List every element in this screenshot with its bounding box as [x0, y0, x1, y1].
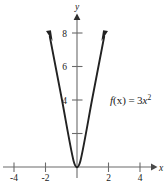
y-axis-label: y [74, 2, 80, 12]
x-tick-label--2: -2 [42, 173, 50, 183]
x-tick-label-4: 4 [138, 173, 143, 183]
function-label: f(x)=3x2 [110, 93, 152, 108]
y-tick-label-6: 6 [62, 62, 67, 72]
function-label-argument: (x) [113, 94, 126, 107]
x-tick-label--4: -4 [10, 173, 18, 183]
figure-background [0, 0, 166, 186]
function-label-exponent: 2 [148, 93, 152, 102]
parabola-graph-figure: -4 -2 2 4 4 6 8 y x f(x)=3x2 [0, 0, 166, 186]
y-tick-label-8: 8 [62, 29, 67, 39]
function-label-equals: = [128, 94, 134, 106]
x-axis-label: x [158, 163, 164, 173]
x-tick-label-2: 2 [106, 173, 111, 183]
